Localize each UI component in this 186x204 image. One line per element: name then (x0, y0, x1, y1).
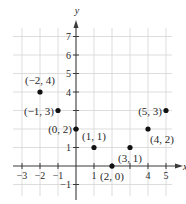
x-axis-label: x (182, 161, 186, 172)
x-tick-label: 5 (164, 170, 169, 181)
data-point-marker (55, 108, 60, 113)
x-axis-arrow-icon (175, 164, 183, 169)
coordinate-plane: xy −3−2−1145−114567 (−2, 4)(−1, 3)(0, 2)… (0, 0, 186, 204)
y-axis-arrow-icon (74, 20, 79, 28)
data-point-label: (5, 3) (138, 105, 162, 118)
data-points: (−2, 4)(−1, 3)(0, 2)(1, 1)(2, 0)(3, 1)(4… (24, 74, 174, 183)
y-axis-label: y (74, 5, 80, 16)
data-point-marker (163, 108, 168, 113)
data-point-marker (127, 145, 132, 150)
data-point-label: (−2, 4) (25, 74, 55, 87)
x-tick-label: 1 (92, 170, 97, 181)
y-tick-label: 7 (66, 31, 71, 42)
data-point-marker (145, 126, 150, 131)
data-point-marker (73, 126, 78, 131)
y-tick-label: 6 (66, 50, 71, 61)
data-point-label: (−1, 3) (24, 105, 54, 118)
data-point-marker (37, 89, 42, 94)
y-tick-label: 4 (66, 87, 71, 98)
x-tick-label: −3 (17, 170, 28, 181)
y-tick-label: 5 (66, 68, 71, 79)
data-point-label: (2, 0) (100, 170, 124, 183)
x-tick-label: 4 (146, 170, 151, 181)
data-point-label: (1, 1) (82, 130, 106, 143)
data-point-marker (109, 163, 114, 168)
data-point-label: (0, 2) (48, 123, 72, 136)
y-tick-label: 1 (66, 142, 71, 153)
y-tick-label: −1 (60, 179, 71, 190)
x-tick-label: −2 (35, 170, 46, 181)
data-point-marker (91, 145, 96, 150)
data-point-label: (3, 1) (118, 152, 142, 165)
data-point-label: (4, 2) (150, 133, 174, 146)
